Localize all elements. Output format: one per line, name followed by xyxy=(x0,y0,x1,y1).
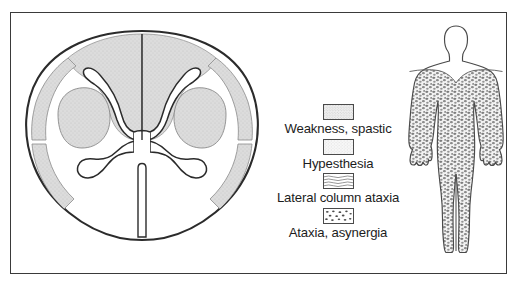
swatch-weakness-spastic xyxy=(323,104,354,120)
legend-item-ataxia-asynergia: Ataxia, asynergia xyxy=(248,208,428,242)
swatch-ataxia-asynergia xyxy=(323,208,354,224)
legend-label-ataxia-asynergia: Ataxia, asynergia xyxy=(289,225,388,242)
lateral-corticospinal-tract-right xyxy=(174,88,226,148)
legend-label-lateral-column-ataxia: Lateral column ataxia xyxy=(277,190,399,207)
spinal-cord-panel xyxy=(14,18,270,256)
legend-item-lateral-column-ataxia: Lateral column ataxia xyxy=(248,173,428,207)
swatch-hypesthesia xyxy=(323,139,354,155)
anterior-median-fissure xyxy=(138,164,146,238)
spinal-cord-cross-section xyxy=(14,18,270,256)
figure-root: Weakness, spastic Hypesthesia xyxy=(0,0,520,287)
legend-label-weakness-spastic: Weakness, spastic xyxy=(284,121,391,138)
symptom-legend: Weakness, spastic Hypesthesia xyxy=(248,104,428,243)
legend-item-weakness-spastic: Weakness, spastic xyxy=(248,104,428,138)
legend-item-hypesthesia: Hypesthesia xyxy=(248,139,428,173)
lateral-corticospinal-tract-left xyxy=(58,88,110,148)
swatch-lateral-column-ataxia xyxy=(323,173,354,189)
body-figure-panel xyxy=(404,20,508,256)
human-body-figure xyxy=(404,20,508,256)
legend-label-hypesthesia: Hypesthesia xyxy=(303,156,374,173)
